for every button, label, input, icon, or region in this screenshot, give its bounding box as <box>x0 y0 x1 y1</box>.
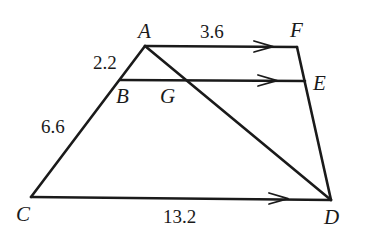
length-label-AF: 3.6 <box>200 21 224 42</box>
length-label-BC: 6.6 <box>41 116 65 137</box>
geometry-diagram: A F B G E C D 3.6 2.2 6.6 13.2 <box>0 0 367 244</box>
segment-AF <box>145 46 297 47</box>
point-label-C: C <box>16 202 31 226</box>
point-label-D: D <box>323 205 339 229</box>
point-label-B: B <box>116 84 129 108</box>
point-label-E: E <box>312 71 326 95</box>
point-label-F: F <box>289 18 303 42</box>
point-label-A: A <box>136 19 151 43</box>
point-label-G: G <box>160 84 175 108</box>
length-label-AB: 2.2 <box>93 52 117 73</box>
length-label-CD: 13.2 <box>163 206 196 227</box>
